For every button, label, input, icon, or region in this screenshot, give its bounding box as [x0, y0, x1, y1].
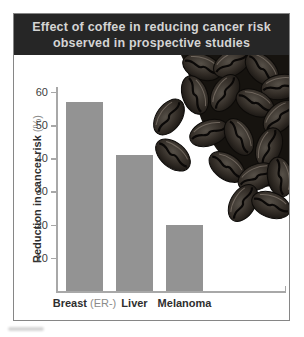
- y-tick-label: 10: [26, 252, 48, 264]
- y-tick-label: 30: [26, 185, 48, 197]
- y-tick: [51, 191, 56, 193]
- y-tick-label: 40: [26, 152, 48, 164]
- figure-page: Effect of coffee in reducing cancer risk…: [0, 0, 304, 337]
- y-axis-line: [56, 87, 58, 291]
- x-category-label: Liver: [121, 297, 147, 309]
- x-axis-endcap: [285, 286, 287, 291]
- x-category-label: Breast(ER-): [53, 297, 117, 309]
- x-category-label: Melanoma: [158, 297, 212, 309]
- bar-melanoma: [166, 225, 203, 291]
- y-tick-label: 20: [26, 219, 48, 231]
- x-axis-line: [56, 291, 286, 293]
- cropped-caption-artifact: [8, 327, 44, 331]
- y-tick: [51, 158, 56, 160]
- y-tick-label: 50: [26, 119, 48, 131]
- y-tick: [51, 125, 56, 127]
- y-tick-label: 60: [26, 86, 48, 98]
- bar-breast: [66, 102, 103, 291]
- y-tick: [51, 92, 56, 94]
- figure-frame: Effect of coffee in reducing cancer risk…: [13, 13, 290, 321]
- y-tick: [51, 258, 56, 260]
- coffee-beans-photo: [147, 55, 289, 233]
- y-tick: [51, 225, 56, 227]
